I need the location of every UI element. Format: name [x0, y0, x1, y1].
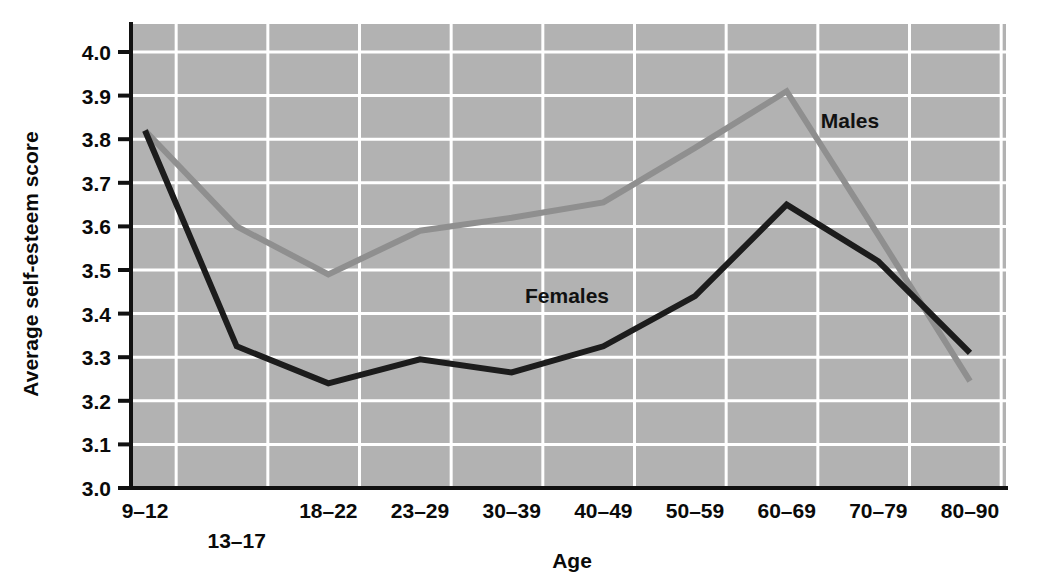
series-label-females: Females: [525, 284, 609, 307]
y-axis-ticks: 3.03.13.23.33.43.53.63.73.83.94.0: [82, 41, 131, 500]
y-tick-label: 3.0: [82, 477, 111, 500]
y-axis-title: Average self-esteem score: [19, 131, 42, 396]
y-tick-label: 4.0: [82, 41, 111, 64]
x-tick-label: 40–49: [574, 499, 632, 522]
chart-figure: 3.03.13.23.33.43.53.63.73.83.94.0 9–1213…: [0, 0, 1048, 580]
y-tick-label: 3.5: [82, 259, 112, 282]
y-tick-label: 3.2: [82, 390, 111, 413]
x-tick-label: 80–90: [941, 499, 999, 522]
x-tick-label: 70–79: [849, 499, 907, 522]
y-tick-label: 3.4: [82, 303, 112, 326]
y-tick-label: 3.9: [82, 85, 111, 108]
x-tick-label: 50–59: [666, 499, 724, 522]
series-label-males: Males: [821, 109, 879, 132]
y-tick-label: 3.3: [82, 346, 111, 369]
x-tick-label: 23–29: [391, 499, 449, 522]
x-axis-ticks: 9–1213–1718–2223–2930–3940–4950–5960–697…: [122, 499, 1000, 552]
x-tick-label: 13–17: [207, 529, 265, 552]
x-tick-label: 60–69: [757, 499, 815, 522]
x-tick-label: 30–39: [482, 499, 540, 522]
x-tick-label: 9–12: [122, 499, 169, 522]
line-chart: 3.03.13.23.33.43.53.63.73.83.94.0 9–1213…: [0, 0, 1048, 580]
y-tick-label: 3.1: [82, 433, 112, 456]
y-tick-label: 3.8: [82, 128, 112, 151]
y-tick-label: 3.6: [82, 215, 111, 238]
y-tick-label: 3.7: [82, 172, 111, 195]
x-axis-title: Age: [552, 549, 592, 572]
x-tick-label: 18–22: [299, 499, 357, 522]
